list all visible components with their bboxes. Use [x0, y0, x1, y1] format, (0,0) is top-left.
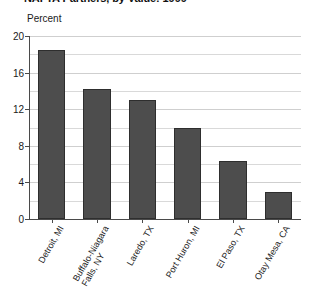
- y-axis-tick-label: 0: [18, 214, 24, 225]
- y-axis-tick-label: 8: [18, 140, 24, 151]
- x-axis-tick-mark: [233, 220, 234, 223]
- x-axis-category-label-line: Laredo, TX: [125, 224, 156, 267]
- x-axis-category-label-line: Port Huron, MI: [163, 224, 201, 280]
- x-axis-category-label-line: Detroit, MI: [36, 224, 65, 265]
- x-axis-category-label: Buffalo-NiagaraFalls, NY: [71, 224, 120, 288]
- y-axis-tick-label: 16: [13, 67, 24, 78]
- x-axis-tick-mark: [97, 220, 98, 223]
- x-axis-tick-mark: [52, 220, 53, 223]
- x-axis-category-label: Otay Mesa, CA: [253, 224, 292, 282]
- x-axis-category-label: El Paso, TX: [214, 224, 246, 270]
- bar: [129, 100, 156, 219]
- bar: [219, 161, 246, 219]
- bar: [265, 192, 292, 219]
- bar: [83, 89, 110, 219]
- chart-title: NAFTA Partners, by Value: 1999: [24, 0, 187, 4]
- bar: [38, 50, 65, 219]
- x-axis-tick-mark: [278, 220, 279, 223]
- y-axis-tick-label: 4: [18, 177, 24, 188]
- x-axis-category-label: Laredo, TX: [125, 224, 156, 267]
- x-axis-category-label: Port Huron, MI: [163, 224, 201, 280]
- y-axis-unit-label: Percent: [27, 13, 61, 24]
- y-axis-tick-label: 20: [13, 31, 24, 42]
- x-axis-tick-mark: [142, 220, 143, 223]
- x-axis-category-label-line: El Paso, TX: [214, 224, 246, 270]
- bar-series: [29, 36, 301, 219]
- x-axis-category-label-line: Otay Mesa, CA: [253, 224, 292, 282]
- x-axis-tick-mark: [188, 220, 189, 223]
- y-axis-tick-label: 12: [13, 104, 24, 115]
- y-axis-tick-mark: [25, 219, 29, 220]
- x-axis-category-label: Detroit, MI: [36, 224, 65, 265]
- bar: [174, 128, 201, 219]
- x-axis-line: [29, 219, 301, 220]
